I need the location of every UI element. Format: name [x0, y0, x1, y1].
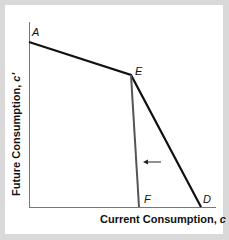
arrow-head-icon — [143, 160, 148, 165]
budget-line-EF — [131, 75, 139, 207]
chart: A E F D Current Consumption, c Future Co… — [0, 0, 229, 240]
y-axis-title: Future Consumption, c′ — [10, 72, 22, 196]
point-label-F: F — [144, 193, 152, 205]
point-label-D: D — [203, 193, 211, 205]
x-axis-title: Current Consumption, c — [100, 213, 226, 225]
point-label-E: E — [135, 65, 143, 77]
point-label-A: A — [31, 26, 39, 38]
budget-line-AED — [29, 42, 201, 207]
